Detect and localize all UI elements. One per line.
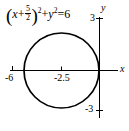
circle-graph-figure: (x+52)2+y2=6 x y -6 -2.5 3 -3 [0,0,129,131]
x-axis-label: x [120,64,124,74]
x-tick-label-neg6: -6 [5,73,13,83]
y-axis-label: y [101,3,105,13]
x-tick-label-neg2point5: -2.5 [54,73,70,83]
y-tick-label-neg3: -3 [85,104,93,114]
y-tick-label-3: 3 [90,13,95,23]
equation-label: (x+52)2+y2=6 [6,5,70,23]
equation-right-side: 6 [64,7,70,21]
equation-plus-sign: + [18,7,25,21]
